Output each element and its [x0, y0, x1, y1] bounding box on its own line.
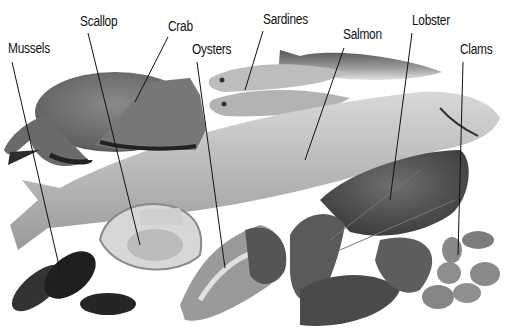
seafood-diagram: Mussels Scallop Crab Oysters Sardines Sa… — [0, 0, 505, 332]
label-mussels: Mussels — [8, 40, 50, 56]
label-sardines: Sardines — [263, 11, 308, 27]
label-crab: Crab — [168, 18, 193, 34]
seafood-illustration — [0, 0, 505, 332]
clams — [422, 231, 500, 309]
label-salmon: Salmon — [343, 26, 382, 42]
label-scallop: Scallop — [80, 13, 117, 29]
label-lobster: Lobster — [412, 12, 450, 28]
label-oysters: Oysters — [192, 41, 231, 57]
label-clams: Clams — [460, 41, 492, 57]
